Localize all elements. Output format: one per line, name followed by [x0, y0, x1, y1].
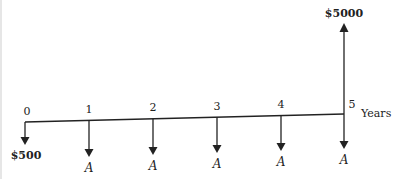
arrow-down-icon	[85, 149, 94, 157]
period-label: 4	[278, 98, 285, 111]
period-0: 0 $500	[11, 105, 42, 162]
arrow-down-icon	[213, 145, 222, 153]
period-label: 1	[86, 103, 93, 116]
arrow-up-icon	[340, 23, 349, 32]
arrow-down-icon	[21, 137, 30, 145]
arrow-down-icon	[340, 141, 349, 149]
cash-flow-diagram: $5000 0 $500 1 A 2 A 3 A 4 A 5 A	[0, 0, 404, 179]
timeline-axis	[25, 114, 344, 122]
payment-amount: A	[276, 155, 286, 169]
period-5: 5 A	[339, 98, 356, 167]
period-2: 2 A	[148, 101, 158, 173]
payment-amount: $500	[11, 149, 42, 162]
period-label: 3	[214, 100, 221, 113]
arrow-down-icon	[277, 143, 286, 151]
period-1: 1 A	[84, 103, 94, 175]
period-4: 4 A	[276, 98, 286, 169]
period-label: 2	[150, 101, 157, 114]
arrow-down-icon	[149, 147, 158, 155]
receipt-arrow-5000: $5000	[325, 7, 364, 114]
payment-amount: A	[148, 159, 158, 173]
period-3: 3 A	[212, 100, 222, 171]
payment-amount: A	[212, 157, 222, 171]
receipt-amount: $5000	[325, 7, 364, 20]
payment-amount: A	[339, 153, 349, 167]
period-label: 5	[349, 98, 356, 111]
axis-unit-label: Years	[360, 107, 392, 120]
period-label: 0	[24, 105, 31, 118]
payment-amount: A	[84, 161, 94, 175]
